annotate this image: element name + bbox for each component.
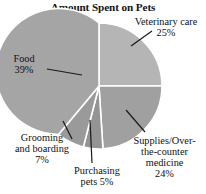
pie-label-supplies-otc-medicine: Supplies/Over- the-counter medicine 24% [123, 135, 206, 179]
pie-label-food: Food 39% [2, 53, 46, 75]
pie-chart-figure: Amount Spent on Pets Veterinary care 25%… [0, 0, 206, 194]
pie-label-veterinary-care: Veterinary care 25% [126, 16, 206, 38]
pie-label-grooming-and-boarding: Grooming and boarding 7% [0, 132, 84, 165]
